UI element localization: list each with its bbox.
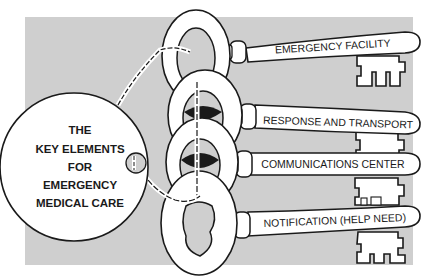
key-label: COMMUNICATIONS CENTER [261, 158, 405, 170]
central-circle: THE KEY ELEMENTS FOR EMERGENCY MEDICAL C… [0, 93, 148, 241]
title-line-5: MEDICAL CARE [36, 197, 124, 209]
title-line-1: THE [69, 124, 92, 136]
key-bit [357, 232, 405, 263]
title-line-4: EMERGENCY [43, 179, 117, 191]
key-bit [357, 56, 405, 86]
title-line-2: KEY ELEMENTS [35, 143, 125, 155]
title-line-3: FOR [68, 161, 93, 173]
key-elements-illustration: EMERGENCY FACILITY RESPONSE AND TRANSPOR… [0, 0, 433, 280]
